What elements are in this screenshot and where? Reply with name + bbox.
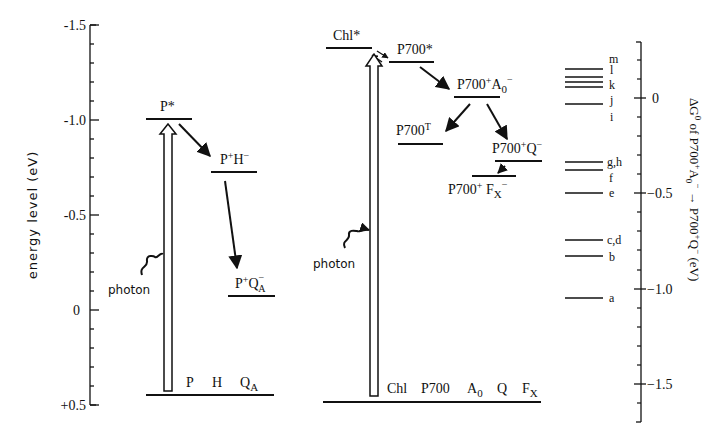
component-p700: P700	[421, 381, 450, 396]
component-fx: FX	[522, 381, 538, 399]
level-label-a: a	[609, 291, 615, 305]
left-tick-label: -1.5	[64, 18, 86, 33]
transfer-arrow-a0-to-triplet	[446, 104, 470, 131]
component-a0: A0	[467, 381, 483, 399]
chl-star-label: Chl*	[333, 28, 360, 43]
right-axis: m l k j i g,h f e c,d b a 0 −0.5	[565, 42, 703, 422]
psi-photon-label: photon	[313, 257, 355, 271]
deltaG-level-labels: m l k j i g,h f e c,d b a	[607, 52, 622, 305]
level-label-g-h: g,h	[607, 155, 622, 169]
photon-label: photon	[108, 283, 150, 297]
p700-triplet-label: P700T	[396, 121, 431, 138]
p-h-label: P+H−	[220, 150, 250, 167]
left-tick-label: +0.5	[61, 398, 86, 413]
p700-star-label: P700*	[397, 42, 433, 57]
p700-q-label: P700+Q−	[492, 139, 543, 156]
level-label-i: i	[610, 110, 614, 124]
psi-excitation-arrow	[366, 54, 382, 396]
component-h: H	[212, 375, 222, 390]
transfer-arrow-p-to-h	[179, 124, 210, 156]
component-q: Q	[497, 381, 507, 396]
p-qa-label: P+Q−A	[235, 272, 266, 294]
energy-transfer-arrow-forward	[377, 51, 388, 58]
level-label-c-d: c,d	[607, 233, 621, 247]
photon-squiggle-icon	[141, 254, 163, 275]
right-tick-label: −0.5	[647, 186, 672, 201]
p-star-label: P*	[160, 99, 175, 114]
component-qa: QA	[240, 375, 258, 393]
left-tick-label: -0.5	[64, 208, 86, 223]
left-tick-label: -1.0	[64, 113, 86, 128]
component-p: P	[186, 375, 194, 390]
level-label-e: e	[609, 186, 614, 200]
excitation-arrow	[160, 124, 176, 391]
transfer-arrow-h-to-qa	[225, 181, 237, 268]
left-axis-title: energy level (eV)	[25, 151, 40, 280]
level-label-f: f	[609, 171, 613, 185]
left-diagram: P* P+H− P+Q−A photon P H QA	[108, 99, 275, 395]
level-label-k: k	[609, 78, 615, 92]
left-axis: -1.5 -1.0 -0.5 0 +0.5 energy level (eV)	[25, 18, 99, 413]
right-axis-title: ΔG0 of P700+A0− → P700+Q− (eV)	[684, 98, 703, 281]
component-chl: Chl	[387, 381, 407, 396]
left-tick-label: 0	[73, 303, 80, 318]
transfer-arrow-q-to-fx	[498, 166, 505, 173]
level-label-j: j	[609, 93, 613, 107]
right-tick-label: 0	[652, 91, 659, 106]
deltaG-level-lines	[565, 69, 603, 298]
p700-fx-label: P700+ FX−	[448, 179, 508, 200]
p700-a0-label: P700+A0−	[457, 74, 513, 95]
transfer-arrow-a0-to-q	[487, 104, 507, 139]
right-tick-label: −1.0	[647, 282, 672, 297]
level-label-b: b	[609, 250, 615, 264]
right-tick-label: −1.5	[647, 377, 672, 392]
psi-photon-squiggle-icon	[344, 230, 369, 248]
transfer-arrow-p700-to-a0	[420, 67, 449, 89]
energy-diagram: -1.5 -1.0 -0.5 0 +0.5 energy level (eV) …	[0, 0, 726, 445]
right-diagram: Chl* P700* P700+A0− P700T P700+Q− P700+ …	[313, 28, 543, 402]
